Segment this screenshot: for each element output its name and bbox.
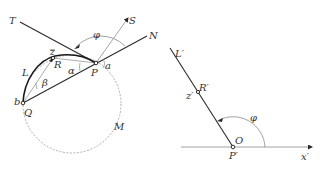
right-diagram: L′ R′ z′ φ O P′ x′ (170, 48, 312, 162)
line-L-prime (170, 48, 233, 147)
geometry-figure: T S N φ z R P a α L β b Q M L′ R′ z′ φ O… (0, 0, 325, 171)
beta-arc (36, 83, 37, 89)
left-diagram: T S N φ z R P a α L β b Q M (9, 15, 159, 153)
phi-arc (76, 36, 125, 47)
point-Q (21, 101, 25, 105)
label-R: R (53, 59, 62, 70)
label-M: M (113, 121, 125, 132)
label-a: a (105, 60, 111, 71)
label-x-prime: x′ (301, 151, 310, 162)
line-QN (23, 36, 147, 103)
label-z: z (49, 47, 55, 57)
line-S (96, 18, 128, 63)
label-Q: Q (24, 107, 32, 118)
label-z-prime: z′ (185, 90, 194, 101)
label-phi: φ (93, 29, 100, 40)
label-P-prime: P′ (228, 150, 239, 161)
label-b: b (14, 96, 20, 107)
label-beta: β (41, 77, 48, 88)
label-N: N (148, 30, 159, 41)
label-R-prime: R′ (198, 82, 210, 93)
label-phi-right: φ (250, 112, 257, 123)
label-O: O (235, 135, 243, 146)
label-T: T (9, 15, 17, 26)
phi-arc-right-arrow-icon (217, 118, 223, 122)
label-alpha: α (68, 65, 75, 76)
phi-arc-arrow-icon (74, 44, 80, 49)
label-L: L (21, 67, 29, 78)
point-P (94, 61, 98, 65)
alpha-arc (79, 63, 80, 71)
label-S: S (129, 15, 136, 26)
label-P: P (90, 67, 98, 78)
label-L-prime: L′ (174, 48, 185, 59)
